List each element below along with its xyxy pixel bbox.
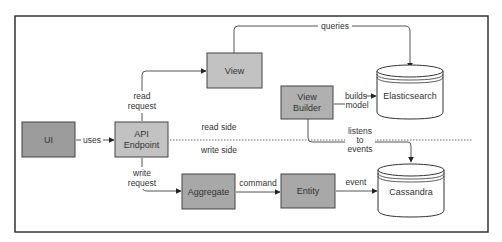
svg-text:View: View [225, 66, 245, 76]
edge-label-read-request: request [128, 101, 157, 111]
svg-text:Endpoint: Endpoint [124, 140, 160, 150]
node-view-builder: View Builder [281, 86, 333, 119]
node-view: View [207, 53, 262, 88]
edge-label-write: write [132, 168, 151, 178]
svg-text:Aggregate: Aggregate [188, 187, 230, 197]
svg-text:API: API [134, 129, 149, 139]
edge-label-uses: uses [83, 135, 101, 145]
edge-label-event: event [346, 177, 367, 187]
cqrs-diagram: read side write side uses read request q… [0, 0, 502, 242]
node-entity: Entity [281, 174, 335, 208]
edge-label-write-request: request [128, 178, 157, 188]
node-elasticsearch-database: Elasticsearch [377, 65, 443, 119]
svg-text:View: View [297, 92, 317, 102]
read-side-label: read side [202, 122, 237, 132]
node-api-endpoint: API Endpoint [115, 122, 168, 157]
edge-label-command: command [239, 178, 277, 188]
write-side-label: write side [200, 145, 237, 155]
edge-label-read: read [133, 91, 150, 101]
svg-text:Builder: Builder [293, 103, 321, 113]
svg-text:Cassandra: Cassandra [389, 187, 433, 197]
svg-text:Elasticsearch: Elasticsearch [383, 91, 437, 101]
edge-label-model: model [345, 100, 368, 110]
edge-label-queries: queries [321, 21, 349, 31]
node-cassandra-database: Cassandra [378, 164, 444, 217]
svg-text:UI: UI [44, 135, 53, 145]
edge-label-events: events [347, 144, 372, 154]
svg-text:Entity: Entity [297, 186, 320, 196]
node-ui: UI [22, 122, 75, 157]
node-aggregate: Aggregate [182, 174, 235, 209]
